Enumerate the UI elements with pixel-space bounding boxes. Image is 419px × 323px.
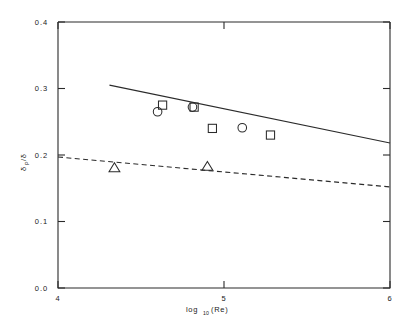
- y-axis-title-base: δ: [19, 166, 28, 171]
- y-tick-label-2: 0.2: [35, 151, 48, 160]
- y-tick-label-4: 0.4: [35, 18, 48, 27]
- y-axis-tick-labels: 0.00.10.20.30.4: [35, 18, 48, 293]
- triangle-marker-1: [202, 161, 213, 170]
- circle-marker-2: [238, 123, 247, 132]
- y-axis-title: δ P /δ: [19, 153, 30, 171]
- square-marker-3: [266, 131, 274, 139]
- dashed-trend-line: [58, 157, 390, 187]
- y-axis-title-rest: /δ: [19, 153, 28, 161]
- plot-frame: [58, 22, 390, 288]
- scatter-plot: 0.00.10.20.30.4 456 log 10 (Re) δ P /δ: [0, 0, 419, 323]
- axis-frame: [58, 22, 390, 288]
- circle-marker-1: [188, 103, 197, 112]
- y-tick-label-0: 0.0: [35, 284, 48, 293]
- square-marker-2: [208, 124, 216, 132]
- x-tick-label-1: 5: [221, 294, 226, 303]
- x-axis-tick-labels: 456: [55, 294, 392, 303]
- y-tick-label-1: 0.1: [35, 217, 48, 226]
- trend-lines: [58, 85, 390, 187]
- x-axis-title: log 10 (Re): [186, 305, 228, 316]
- circle-marker-0: [153, 107, 162, 116]
- y-tick-label-3: 0.3: [35, 84, 48, 93]
- x-tick-label-2: 6: [387, 294, 392, 303]
- data-markers: [109, 101, 275, 172]
- solid-trend-line: [109, 85, 390, 143]
- x-axis-title-arg: (Re): [211, 305, 228, 314]
- chart-figure: 0.00.10.20.30.4 456 log 10 (Re) δ P /δ: [0, 0, 419, 323]
- x-tick-label-0: 4: [55, 294, 60, 303]
- x-axis-title-sub: 10: [203, 310, 209, 316]
- x-axis-title-base: log: [186, 305, 198, 314]
- triangle-marker-0: [109, 163, 120, 172]
- axis-ticks: [58, 22, 390, 288]
